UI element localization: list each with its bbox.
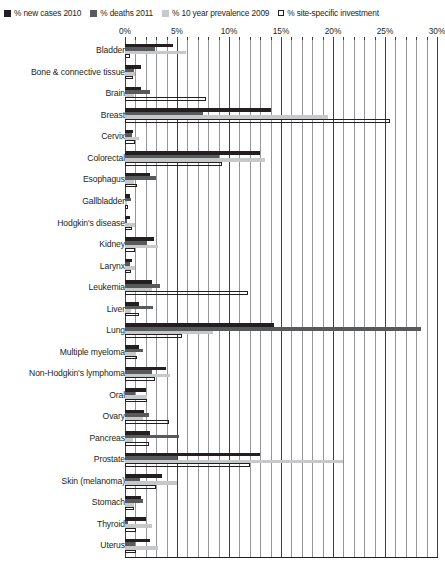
category-label: Larynx bbox=[5, 261, 125, 271]
x-tick-label: 0% bbox=[119, 26, 131, 36]
bar-group bbox=[125, 40, 437, 62]
category-label: Cervix bbox=[5, 131, 125, 141]
bar-3 bbox=[125, 119, 390, 123]
chart-row: Multiple myeloma bbox=[0, 341, 441, 363]
chart-row: Liver bbox=[0, 298, 441, 320]
x-tick-label: 20% bbox=[325, 26, 342, 36]
category-label: Hodgkin's disease bbox=[5, 218, 125, 228]
bar-3 bbox=[125, 463, 250, 467]
square-swatch-icon bbox=[162, 10, 169, 17]
bar-3 bbox=[125, 507, 134, 511]
legend-item-label: % 10 year prevalence 2009 bbox=[172, 8, 269, 18]
bar-group bbox=[125, 363, 437, 385]
bar-3 bbox=[125, 356, 137, 360]
bar-3 bbox=[125, 162, 222, 166]
bar-group bbox=[125, 471, 437, 493]
legend-item-label: % site-specific investment bbox=[287, 8, 379, 18]
bar-3 bbox=[125, 377, 155, 381]
bar-3 bbox=[125, 485, 156, 489]
category-label: Uterus bbox=[5, 540, 125, 550]
chart-row: Lung bbox=[0, 320, 441, 342]
category-label: Gallbladder bbox=[5, 196, 125, 206]
bar-group bbox=[125, 492, 437, 514]
bar-3 bbox=[125, 528, 136, 532]
square-swatch-icon bbox=[90, 10, 97, 17]
category-label: Skin (melanoma) bbox=[5, 476, 125, 486]
category-label: Oral bbox=[5, 390, 125, 400]
chart-row: Cervix bbox=[0, 126, 441, 148]
outlined-square-swatch-icon bbox=[278, 10, 284, 16]
bar-3 bbox=[125, 420, 169, 424]
x-tick-label: 5% bbox=[171, 26, 183, 36]
bar-3 bbox=[125, 54, 130, 58]
chart-legend: % new cases 2010% deaths 2011% 10 year p… bbox=[4, 6, 437, 20]
category-label: Bladder bbox=[5, 45, 125, 55]
bar-3 bbox=[125, 76, 133, 80]
bar-0 bbox=[125, 517, 146, 521]
legend-item-3: % site-specific investment bbox=[278, 8, 379, 18]
bar-3 bbox=[125, 270, 131, 274]
x-tick-label: 25% bbox=[377, 26, 394, 36]
category-label: Bone & connective tissue bbox=[5, 67, 125, 77]
bar-2 bbox=[125, 51, 186, 55]
category-label: Ovary bbox=[5, 411, 125, 421]
category-label: Leukemia bbox=[5, 282, 125, 292]
bar-group bbox=[125, 126, 437, 148]
chart-row: Kidney bbox=[0, 234, 441, 256]
bar-group bbox=[125, 406, 437, 428]
bar-group bbox=[125, 428, 437, 450]
x-tick-label: 15% bbox=[273, 26, 290, 36]
chart-row: Non-Hodgkin's lymphoma bbox=[0, 363, 441, 385]
chart-row: Bone & connective tissue bbox=[0, 62, 441, 84]
chart-row: Gallbladder bbox=[0, 191, 441, 213]
bar-group bbox=[125, 320, 437, 342]
chart-row: Larynx bbox=[0, 255, 441, 277]
bar-3 bbox=[125, 248, 135, 252]
category-label: Esophagus bbox=[5, 174, 125, 184]
chart-row: Esophagus bbox=[0, 169, 441, 191]
bar-3 bbox=[125, 291, 248, 295]
x-tick-label: 10% bbox=[221, 26, 238, 36]
chart-row: Brain bbox=[0, 83, 441, 105]
bar-group bbox=[125, 105, 437, 127]
chart-row: Colorectal bbox=[0, 148, 441, 170]
bar-3 bbox=[125, 227, 132, 231]
chart-row: Leukemia bbox=[0, 277, 441, 299]
chart-row: Hodgkin's disease bbox=[0, 212, 441, 234]
bar-group bbox=[125, 535, 437, 557]
bar-group bbox=[125, 191, 437, 213]
chart-row: Oral bbox=[0, 385, 441, 407]
x-axis-baseline bbox=[125, 557, 438, 558]
bar-3 bbox=[125, 140, 135, 144]
bar-3 bbox=[125, 97, 206, 101]
bar-group bbox=[125, 449, 437, 471]
legend-item-0: % new cases 2010 bbox=[4, 8, 81, 18]
chart-row: Pancreas bbox=[0, 428, 441, 450]
chart-row: Stomach bbox=[0, 492, 441, 514]
legend-item-1: % deaths 2011 bbox=[90, 8, 153, 18]
bar-group bbox=[125, 385, 437, 407]
bar-3 bbox=[125, 550, 136, 554]
category-label: Breast bbox=[5, 110, 125, 120]
category-label: Colorectal bbox=[5, 153, 125, 163]
category-label: Prostate bbox=[5, 454, 125, 464]
bar-group bbox=[125, 277, 437, 299]
bar-group bbox=[125, 83, 437, 105]
legend-item-label: % deaths 2011 bbox=[100, 8, 153, 18]
chart-row: Uterus bbox=[0, 535, 441, 557]
category-label: Pancreas bbox=[5, 433, 125, 443]
bar-3 bbox=[125, 399, 147, 403]
chart-row: Prostate bbox=[0, 449, 441, 471]
bar-group bbox=[125, 255, 437, 277]
chart-row: Breast bbox=[0, 105, 441, 127]
bar-3 bbox=[125, 442, 149, 446]
bar-group bbox=[125, 234, 437, 256]
category-label: Kidney bbox=[5, 239, 125, 249]
chart-row: Thyroid bbox=[0, 514, 441, 536]
x-tick-label: 30% bbox=[429, 26, 445, 36]
category-label: Non-Hodgkin's lymphoma bbox=[5, 368, 125, 378]
chart-row: Bladder bbox=[0, 40, 441, 62]
chart-rows: BladderBone & connective tissueBrainBrea… bbox=[0, 40, 441, 557]
bar-3 bbox=[125, 184, 137, 188]
